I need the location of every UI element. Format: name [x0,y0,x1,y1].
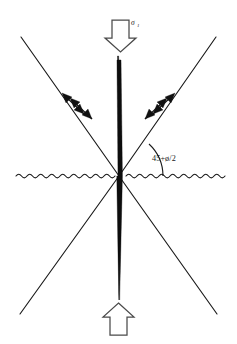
wavy-line-left [16,174,115,178]
left-shear-marker-group [62,93,92,119]
sigma-1-label: σ [131,18,135,27]
angle-label: 45+ø/2 [152,154,176,163]
bottom-reaction-arrow-up [103,303,134,335]
axial-spindle-group [117,56,123,300]
sigma-1-subscript: 1 [137,23,140,28]
left-shear-arrow-inner [70,98,92,119]
lower-left-failure-plane [20,176,119,314]
right-shear-marker-group [145,93,175,119]
lower-right-failure-plane [119,176,217,314]
diagram-canvas: 45+ø/2 σ 1 [0,0,237,344]
upper-left-failure-plane [21,37,119,176]
figure-root: 45+ø/2 σ 1 [0,0,237,344]
right-shear-arrow-inner [145,98,167,119]
wavy-line-right [126,174,225,178]
